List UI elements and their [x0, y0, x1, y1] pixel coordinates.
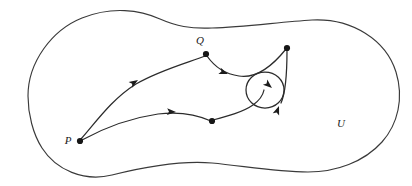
- label-point-q: Q: [196, 34, 204, 46]
- topology-diagram: P Q U: [0, 0, 412, 186]
- label-region-u: U: [337, 117, 346, 129]
- arrow-head-group: [129, 68, 283, 116]
- node-dot-q: [203, 51, 209, 57]
- figure-canvas: P Q U: [0, 0, 412, 186]
- region-boundary-outline: [28, 11, 400, 177]
- curve-p-to-bottom-mid-node: [82, 113, 211, 140]
- arrow-lower-path-icon: [167, 108, 176, 115]
- curve-bottom-mid-to-loop: [213, 90, 264, 120]
- node-dot-group: [77, 45, 290, 144]
- label-point-p: P: [64, 134, 72, 146]
- arrow-loop-right-icon: [263, 80, 274, 91]
- curve-loop-to-top-right-node: [281, 50, 287, 103]
- curve-p-to-q: [81, 56, 205, 139]
- node-dot-bottom-mid: [209, 118, 215, 124]
- small-loop-circle: [246, 72, 284, 108]
- node-dot-p: [77, 138, 83, 144]
- curve-q-to-top-right-node: [207, 49, 286, 76]
- node-dot-top-right: [284, 45, 290, 51]
